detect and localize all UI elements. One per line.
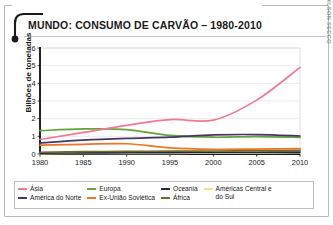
legend-item-label: Oceania — [173, 185, 198, 193]
legend-swatch-icon — [18, 188, 27, 190]
legend-swatch-icon — [87, 188, 96, 190]
legend-item-label: Ex-União Soviética — [99, 194, 155, 202]
legend-item[interactable]: Oceania — [161, 185, 198, 193]
credit-text: ADILSON SECCO — [326, 0, 332, 44]
title-divider — [24, 36, 326, 37]
svg-text:1: 1 — [31, 132, 35, 141]
legend-item[interactable]: África — [161, 194, 198, 202]
legend-item-label: Ásia — [30, 185, 43, 193]
svg-text:2: 2 — [31, 114, 35, 123]
legend-item[interactable]: Ex-União Soviética — [87, 194, 155, 202]
legend-swatch-icon — [161, 197, 170, 199]
page-title: MUNDO: CONSUMO DE CARVÃO – 1980-2010 — [28, 19, 262, 31]
legend-item[interactable]: América do Norte — [18, 194, 81, 202]
legend-column: ÁsiaAmérica do Norte — [18, 184, 81, 202]
legend-item[interactable]: Ásia — [18, 185, 81, 193]
svg-text:2010: 2010 — [292, 158, 308, 167]
legend-column: Américas Central e do Sul — [204, 184, 278, 201]
legend-item[interactable]: Américas Central e do Sul — [204, 185, 278, 201]
plot-area: Bilhões de toneladas 0123456198019851990… — [14, 42, 314, 174]
svg-text:1995: 1995 — [162, 158, 178, 167]
svg-text:3: 3 — [31, 97, 35, 106]
line-chart: 01234561980198519901995200020052010 — [14, 42, 314, 174]
legend-swatch-icon — [204, 188, 213, 190]
legend-column: OceaniaÁfrica — [161, 184, 198, 202]
legend-swatch-icon — [161, 188, 170, 190]
svg-text:1990: 1990 — [118, 158, 134, 167]
legend-item-label: Europa — [99, 185, 120, 193]
legend-swatch-icon — [18, 197, 27, 199]
legend-item-label: África — [173, 194, 190, 202]
svg-text:1985: 1985 — [75, 158, 91, 167]
legend-column: EuropaEx-União Soviética — [87, 184, 155, 202]
svg-text:2000: 2000 — [205, 158, 221, 167]
chart-legend: ÁsiaAmérica do NorteEuropaEx-União Sovié… — [14, 181, 314, 209]
legend-item-label: América do Norte — [30, 194, 81, 202]
svg-text:4: 4 — [31, 79, 35, 88]
legend-swatch-icon — [87, 197, 96, 199]
chart-figure: MUNDO: CONSUMO DE CARVÃO – 1980-2010 Bil… — [0, 0, 333, 225]
legend-item[interactable]: Europa — [87, 185, 155, 193]
svg-text:2005: 2005 — [248, 158, 264, 167]
legend-item-label: Américas Central e do Sul — [216, 185, 278, 201]
svg-text:6: 6 — [31, 44, 35, 53]
svg-text:1980: 1980 — [32, 158, 48, 167]
svg-text:5: 5 — [31, 61, 35, 70]
